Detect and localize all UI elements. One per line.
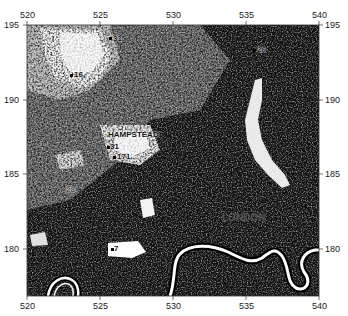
map-figure: 520 525 530 535 540 520 525 530 535 540 … [0,0,348,316]
y-tick-label-right: 195 [325,20,340,30]
x-tick-label-top: 535 [239,10,254,20]
site-marker-28: 28 [66,185,75,194]
site-marker-1: 1 [40,140,44,149]
map-raster [0,0,348,316]
y-tick-label-right: 190 [325,95,340,105]
y-tick-label-left: 185 [4,169,19,179]
place-label-hampstead: HAMPSTEAD [108,130,159,139]
site-marker-7: 7 [114,244,118,253]
x-tick-label-bottom: 535 [239,301,254,311]
y-tick-label-left: 180 [4,244,19,254]
site-marker-31b: 31 [110,142,119,151]
y-tick-label-right: 180 [325,244,340,254]
site-marker-31: 31 [113,34,122,43]
x-tick-label-bottom: 520 [20,301,35,311]
site-marker-dot [109,37,112,40]
y-tick-label-left: 195 [4,20,19,30]
site-marker-26: 26 [257,45,266,54]
place-label-london: LONDON [222,213,265,222]
x-tick-label-bottom: 525 [93,301,108,311]
x-tick-label-top: 525 [93,10,108,20]
x-tick-label-top: 530 [166,10,181,20]
y-tick-label-left: 190 [4,95,19,105]
x-tick-label-top: 520 [20,10,35,20]
x-tick-label-top: 540 [312,10,327,20]
y-tick-label-right: 185 [325,169,340,179]
x-tick-label-bottom: 540 [312,301,327,311]
site-marker-dot [113,156,116,159]
site-marker-171: 171 [117,152,130,161]
site-marker-dot [70,74,73,77]
site-marker-dot [253,49,256,52]
x-tick-label-bottom: 530 [166,301,181,311]
site-marker-16: 16 [74,70,83,79]
